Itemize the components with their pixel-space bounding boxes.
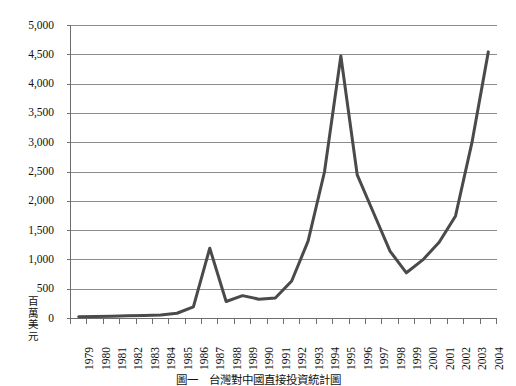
- x-axis-tick-label: 1982: [132, 324, 144, 370]
- x-axis-tick-label: 1998: [395, 324, 407, 370]
- x-axis-tick-label: 2000: [427, 324, 439, 370]
- x-axis-tick-label: 2001: [444, 324, 456, 370]
- x-axis-tick-label: 1999: [411, 324, 423, 370]
- x-axis-tick-label: 1990: [263, 324, 275, 370]
- x-axis-tick-label: 1979: [83, 324, 95, 370]
- x-axis-tick-label: 2003: [476, 324, 488, 370]
- x-axis-tick-label: 1997: [378, 324, 390, 370]
- x-axis-tick-label: 1985: [182, 324, 194, 370]
- x-axis-tick-label: 2002: [460, 324, 472, 370]
- x-axis-tick-label: 1981: [116, 324, 128, 370]
- x-axis-tick-label: 1988: [231, 324, 243, 370]
- x-axis-tick-label: 1987: [214, 324, 226, 370]
- x-axis-tick-label: 1992: [296, 324, 308, 370]
- x-axis-tick-label: 1995: [345, 324, 357, 370]
- x-axis-tick-label: 1991: [280, 324, 292, 370]
- x-axis-labels: 1979198019811982198319841985198619871988…: [0, 0, 516, 386]
- x-axis-tick-label: 2004: [493, 324, 505, 370]
- x-axis-tick-label: 1986: [198, 324, 210, 370]
- figure-caption: 圖一 台灣對中國直接投資統計圖: [0, 374, 516, 386]
- x-axis-tick-label: 1993: [313, 324, 325, 370]
- x-axis-tick-label: 1989: [247, 324, 259, 370]
- x-axis-tick-label: 1996: [362, 324, 374, 370]
- x-axis-tick-label: 1994: [329, 324, 341, 370]
- x-axis-tick-label: 1983: [149, 324, 161, 370]
- x-axis-tick-label: 1980: [100, 324, 112, 370]
- chart-figure: 05001,0001,5002,0002,5003,0003,5004,0004…: [0, 0, 516, 386]
- x-axis-tick-label: 1984: [165, 324, 177, 370]
